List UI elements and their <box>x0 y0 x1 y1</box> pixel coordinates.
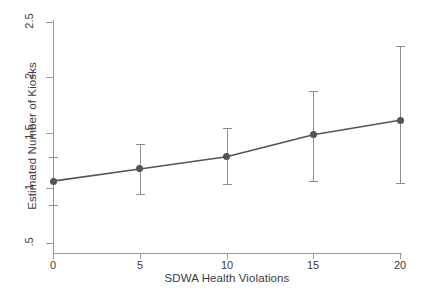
data-point-marker <box>136 165 143 172</box>
y-tick-label: 2 <box>23 59 35 93</box>
error-bar-cap <box>49 157 58 158</box>
chart-figure: Estimated Number of Kiosks SDWA Health V… <box>0 0 422 293</box>
y-tick-label-wrap: 2.5 <box>22 15 46 29</box>
x-axis-title: SDWA Health Violations <box>53 272 401 284</box>
error-bar-cap <box>396 46 405 47</box>
y-tick-label: 1.5 <box>23 115 35 149</box>
y-axis-line <box>53 20 54 254</box>
x-tick-label: 15 <box>298 259 328 271</box>
y-tick-label-wrap: 1 <box>22 181 46 195</box>
error-bar-cap <box>49 205 58 206</box>
error-bar-cap <box>223 184 232 185</box>
error-bar-cap <box>309 181 318 182</box>
data-point-marker <box>223 153 230 160</box>
y-tick-label: .5 <box>23 225 35 259</box>
error-bar-cap <box>136 144 145 145</box>
y-tick-mark <box>46 133 53 134</box>
error-bar-cap <box>309 91 318 92</box>
data-point-marker <box>310 131 317 138</box>
y-tick-label: 2.5 <box>23 4 35 38</box>
data-point-marker <box>397 117 404 124</box>
y-tick-label-wrap: 1.5 <box>22 126 46 140</box>
error-bar <box>400 46 401 183</box>
x-tick-label: 5 <box>125 259 155 271</box>
x-tick-label: 10 <box>212 259 242 271</box>
y-tick-mark <box>46 243 53 244</box>
y-tick-label-wrap: .5 <box>22 236 46 250</box>
x-tick-label: 20 <box>385 259 415 271</box>
y-tick-label-wrap: 2 <box>22 70 46 84</box>
y-tick-label: 1 <box>23 170 35 204</box>
x-tick-label: 0 <box>38 259 68 271</box>
error-bar-cap <box>396 183 405 184</box>
y-tick-mark <box>46 22 53 23</box>
fit-line-layer <box>0 0 422 293</box>
y-tick-mark <box>46 188 53 189</box>
error-bar-cap <box>136 194 145 195</box>
y-tick-mark <box>46 77 53 78</box>
error-bar-cap <box>223 128 232 129</box>
data-point-marker <box>50 178 57 185</box>
